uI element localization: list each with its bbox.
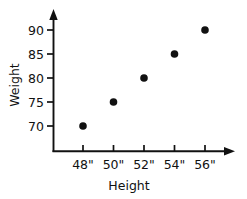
y-tick-label: 85 xyxy=(28,47,44,62)
data-point xyxy=(171,50,179,58)
data-point xyxy=(140,74,148,82)
scatter-plot-figure: 90 85 80 75 70 48" 50" 52" 54" 56" Heigh… xyxy=(0,0,247,199)
data-point xyxy=(110,98,118,106)
y-axis-arrow-icon xyxy=(49,9,57,20)
data-point xyxy=(79,122,87,130)
x-axis-arrow-icon xyxy=(224,147,235,155)
x-tick-label: 56" xyxy=(194,157,216,172)
y-axis-title: Weight xyxy=(7,63,22,107)
x-axis-title: Height xyxy=(108,178,149,193)
y-tick-label: 90 xyxy=(28,23,44,38)
x-tick-label: 54" xyxy=(164,157,186,172)
plot-canvas: 90 85 80 75 70 48" 50" 52" 54" 56" Heigh… xyxy=(0,0,247,199)
y-tick-label: 75 xyxy=(28,95,44,110)
y-tick-label: 80 xyxy=(28,71,44,86)
data-point xyxy=(201,26,209,34)
x-tick-label: 50" xyxy=(103,157,125,172)
x-tick-label: 48" xyxy=(72,157,94,172)
x-tick-label: 52" xyxy=(133,157,155,172)
y-tick-label: 70 xyxy=(28,119,44,134)
